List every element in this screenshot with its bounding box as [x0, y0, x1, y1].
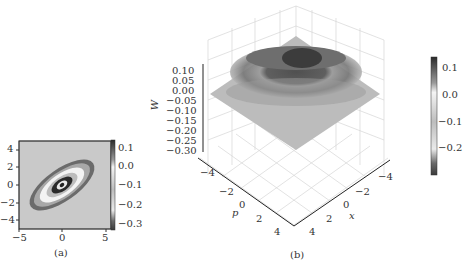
a-ytick: −2 — [0, 198, 15, 208]
caption-a: (a) — [54, 247, 68, 258]
a-xtick: 5 — [102, 233, 108, 243]
b-xlabel: x — [349, 211, 355, 221]
figure-canvas — [0, 0, 467, 265]
b-xtick: −2 — [355, 187, 370, 197]
a-ytick: −4 — [0, 215, 15, 225]
b-ptick: −2 — [219, 187, 234, 197]
a-xtick: −5 — [12, 233, 27, 243]
a-ytick: 0 — [7, 180, 13, 190]
a-cbar-tick: −0.2 — [118, 200, 142, 210]
b-xtick: −4 — [378, 172, 393, 182]
b-ztick: −0.30 — [166, 146, 197, 156]
caption-b: (b) — [290, 249, 304, 260]
b-xtick: 2 — [326, 214, 332, 224]
b-zlabel: W — [150, 100, 160, 110]
b-ptick: 4 — [274, 227, 280, 237]
surface-plane — [210, 36, 380, 150]
b-ptick: −4 — [200, 168, 215, 178]
a-ytick: 2 — [7, 162, 13, 172]
a-ytick: 4 — [7, 144, 13, 154]
b-cbar-tick: 0.1 — [442, 63, 458, 73]
a-cbar-tick: −0.1 — [118, 180, 142, 190]
b-cbar-tick: −0.1 — [438, 117, 462, 127]
b-xtick: 4 — [309, 227, 315, 237]
a-cbar-tick: 0.1 — [118, 143, 134, 153]
b-plabel: p — [232, 208, 238, 218]
b-xtick: 0 — [343, 200, 349, 210]
b-ptick: 0 — [239, 200, 245, 210]
b-cbar-tick: 0.0 — [442, 90, 458, 100]
a-xtick: 0 — [59, 233, 65, 243]
a-cbar-tick: −0.3 — [118, 219, 142, 229]
b-ptick: 2 — [256, 214, 262, 224]
colorbar-b — [431, 57, 437, 175]
heatmap-a — [16, 140, 115, 232]
b-cbar-tick: −0.2 — [438, 143, 462, 153]
a-cbar-tick: 0.0 — [118, 161, 134, 171]
